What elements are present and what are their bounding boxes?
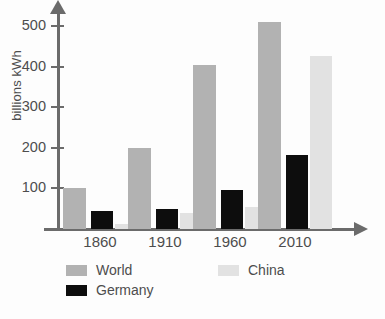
legend-item-china: China: [218, 262, 285, 278]
x-tick-label: 1860: [65, 233, 135, 250]
bar-germany-1860: [91, 211, 113, 229]
legend-swatch-china: [218, 265, 239, 276]
bar-china-2010: [310, 56, 332, 229]
legend-label-china: China: [248, 262, 285, 278]
legend-item-germany: Germany: [66, 282, 154, 298]
legend-swatch-world: [66, 265, 87, 276]
x-tick-label: 1910: [130, 233, 200, 250]
legend-item-world: World: [66, 262, 132, 278]
bar-world-1910: [128, 148, 151, 229]
bar-world-2010: [258, 22, 281, 229]
bar-chart: billions kWh 100200300400500 18601910196…: [0, 0, 385, 319]
legend-swatch-germany: [66, 285, 87, 296]
x-tick-label: 1960: [195, 233, 265, 250]
bar-world-1860: [63, 188, 86, 229]
plot-area: [0, 0, 385, 319]
x-tick-label: 2010: [260, 233, 330, 250]
bar-world-1960: [193, 65, 216, 229]
legend-label-germany: Germany: [96, 282, 154, 298]
bar-germany-1910: [156, 209, 178, 229]
bar-germany-2010: [286, 155, 308, 229]
bar-germany-1960: [221, 190, 243, 229]
legend-label-world: World: [96, 262, 132, 278]
